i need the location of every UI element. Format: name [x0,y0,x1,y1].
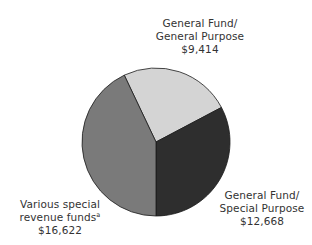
footnote-marker: a [96,211,100,219]
label-general-purpose-line1: General Fund/ [148,17,252,30]
label-various-line1: Various special [14,198,106,211]
label-general-purpose-line2: General Purpose [148,30,252,43]
label-special-purpose-value: $12,668 [214,215,310,228]
label-special-purpose-line1: General Fund/ [214,189,310,202]
label-various-line2-wrap: revenue fundsa [14,211,106,224]
label-various-line2: revenue funds [20,211,97,223]
label-special-purpose: General Fund/ Special Purpose $12,668 [214,189,310,228]
label-general-purpose-value: $9,414 [148,43,252,56]
label-various-special-revenue: Various special revenue fundsa $16,622 [14,198,106,237]
label-various-value: $16,622 [14,224,106,237]
label-general-purpose: General Fund/ General Purpose $9,414 [148,17,252,56]
label-special-purpose-line2: Special Purpose [214,202,310,215]
